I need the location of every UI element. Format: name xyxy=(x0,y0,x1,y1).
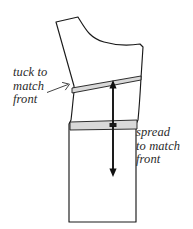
spread-label-line-2: to match xyxy=(136,139,180,153)
spread-band xyxy=(70,120,137,130)
spread-label-line-3: front xyxy=(136,152,160,166)
tuck-label-line-1: tuck to xyxy=(13,65,47,79)
trouser-back-leg-outline xyxy=(56,17,143,222)
tuck-leader-arrow xyxy=(47,83,70,93)
spread-label-line-1: spread xyxy=(136,125,170,139)
tuck-label-line-3: front xyxy=(13,92,37,106)
tuck-label-line-2: match xyxy=(13,79,44,93)
pattern-alteration-diagram: tuck tomatchfront spreadto matchfront xyxy=(0,0,193,229)
pattern-diagram-canvas xyxy=(0,0,193,229)
tuck-annotation-label: tuck tomatchfront xyxy=(13,66,47,107)
spread-annotation-label: spreadto matchfront xyxy=(136,126,180,167)
